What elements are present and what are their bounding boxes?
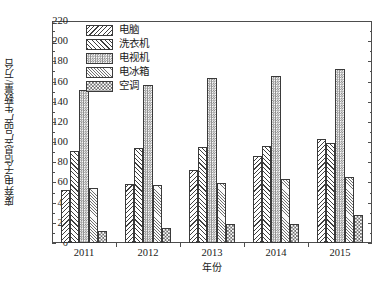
- y-minor-tick-mark: [52, 71, 55, 72]
- bar: [79, 90, 88, 243]
- bar: [217, 183, 226, 243]
- bar: [89, 188, 98, 244]
- y-minor-tick-mark: [52, 92, 55, 93]
- bar: [189, 170, 198, 243]
- y-tick-mark-right: [368, 243, 372, 244]
- bar: [61, 190, 70, 243]
- x-tick-mark: [116, 243, 117, 247]
- y-minor-tick-mark-right: [370, 233, 373, 234]
- x-axis-title: 年份: [52, 263, 372, 273]
- bar: [98, 231, 107, 243]
- y-minor-tick-mark: [52, 233, 55, 234]
- x-tick-label: 2014: [246, 248, 306, 259]
- y-minor-tick-mark-right: [370, 213, 373, 214]
- bar: [335, 69, 344, 243]
- legend-swatch-icon: [86, 53, 113, 64]
- x-tick-mark: [308, 243, 309, 247]
- y-axis-title: 废弃电子信息产品产生数量/万台: [1, 20, 19, 244]
- bar: [162, 228, 171, 243]
- y-tick-mark-right: [368, 102, 372, 103]
- y-tick-mark: [52, 41, 56, 42]
- legend-item: 电视机: [86, 52, 149, 64]
- y-tick-mark: [52, 243, 56, 244]
- legend-swatch-icon: [86, 25, 113, 36]
- y-minor-tick-mark: [52, 213, 55, 214]
- y-minor-tick-mark-right: [370, 152, 373, 153]
- bar: [143, 85, 152, 243]
- legend-item: 电冰箱: [86, 66, 149, 78]
- bar: [253, 156, 262, 243]
- y-tick-mark: [52, 162, 56, 163]
- legend-item: 空调: [86, 80, 149, 92]
- y-tick-mark-right: [368, 162, 372, 163]
- legend-swatch-icon: [86, 39, 113, 50]
- y-minor-tick-mark-right: [370, 31, 373, 32]
- y-tick-mark: [52, 82, 56, 83]
- y-tick-mark-right: [368, 122, 372, 123]
- y-tick-mark: [52, 223, 56, 224]
- bar: [281, 179, 290, 243]
- x-tick-label: 2015: [310, 248, 370, 259]
- bar: [345, 177, 354, 243]
- bar: [198, 147, 207, 243]
- legend-label: 空调: [119, 81, 139, 92]
- y-tick-mark: [52, 21, 56, 22]
- bar: [70, 151, 79, 243]
- chart-legend: 电脑洗衣机电视机电冰箱空调: [86, 24, 149, 92]
- y-minor-tick-mark-right: [370, 92, 373, 93]
- y-minor-tick-mark-right: [370, 193, 373, 194]
- y-minor-tick-mark-right: [370, 172, 373, 173]
- legend-item: 电脑: [86, 24, 149, 36]
- y-minor-tick-mark: [52, 132, 55, 133]
- y-tick-mark-right: [368, 142, 372, 143]
- y-tick-mark: [52, 102, 56, 103]
- legend-item: 洗衣机: [86, 38, 149, 50]
- legend-label: 洗衣机: [119, 39, 149, 50]
- y-minor-tick-mark: [52, 193, 55, 194]
- legend-label: 电冰箱: [119, 67, 149, 78]
- y-tick-mark-right: [368, 223, 372, 224]
- bar: [262, 146, 271, 243]
- legend-swatch-icon: [86, 67, 113, 78]
- legend-label: 电视机: [119, 53, 149, 64]
- legend-label: 电脑: [119, 25, 139, 36]
- y-tick-mark-right: [368, 21, 372, 22]
- y-minor-tick-mark-right: [370, 112, 373, 113]
- bar: [226, 224, 235, 243]
- bar: [317, 139, 326, 243]
- y-tick-mark: [52, 122, 56, 123]
- y-minor-tick-mark-right: [370, 51, 373, 52]
- bar: [153, 185, 162, 243]
- y-tick-mark-right: [368, 203, 372, 204]
- y-tick-mark-right: [368, 41, 372, 42]
- y-tick-mark: [52, 142, 56, 143]
- y-minor-tick-mark-right: [370, 132, 373, 133]
- x-tick-mark: [244, 243, 245, 247]
- bar: [271, 76, 280, 244]
- bar: [207, 78, 216, 243]
- y-tick-mark-right: [368, 61, 372, 62]
- legend-swatch-icon: [86, 81, 113, 92]
- bar: [326, 143, 335, 243]
- y-tick-mark-right: [368, 82, 372, 83]
- y-minor-tick-mark: [52, 112, 55, 113]
- x-tick-mark: [180, 243, 181, 247]
- y-tick-mark: [52, 203, 56, 204]
- y-tick-mark: [52, 182, 56, 183]
- y-minor-tick-mark: [52, 172, 55, 173]
- y-tick-mark: [52, 61, 56, 62]
- bar-chart: 废弃电子信息产品产生数量/万台 020406080100120140160180…: [0, 0, 390, 285]
- x-tick-label: 2013: [182, 248, 242, 259]
- x-tick-label: 2011: [54, 248, 114, 259]
- bar: [125, 184, 134, 243]
- bar: [134, 148, 143, 243]
- y-minor-tick-mark: [52, 51, 55, 52]
- y-minor-tick-mark: [52, 152, 55, 153]
- bar: [290, 224, 299, 243]
- bar: [354, 215, 363, 243]
- y-tick-mark-right: [368, 182, 372, 183]
- y-minor-tick-mark-right: [370, 71, 373, 72]
- x-tick-label: 2012: [118, 248, 178, 259]
- y-minor-tick-mark: [52, 31, 55, 32]
